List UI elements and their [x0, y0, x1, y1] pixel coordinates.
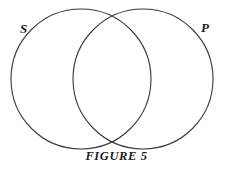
circle-subject-s: [11, 9, 151, 149]
label-s: S: [20, 21, 27, 36]
circle-predicate-p: [73, 9, 213, 149]
label-p: P: [201, 20, 210, 35]
figure-container: S P FIGURE 5: [0, 0, 233, 171]
figure-caption: FIGURE 5: [0, 149, 233, 164]
venn-diagram: S P: [0, 0, 233, 171]
